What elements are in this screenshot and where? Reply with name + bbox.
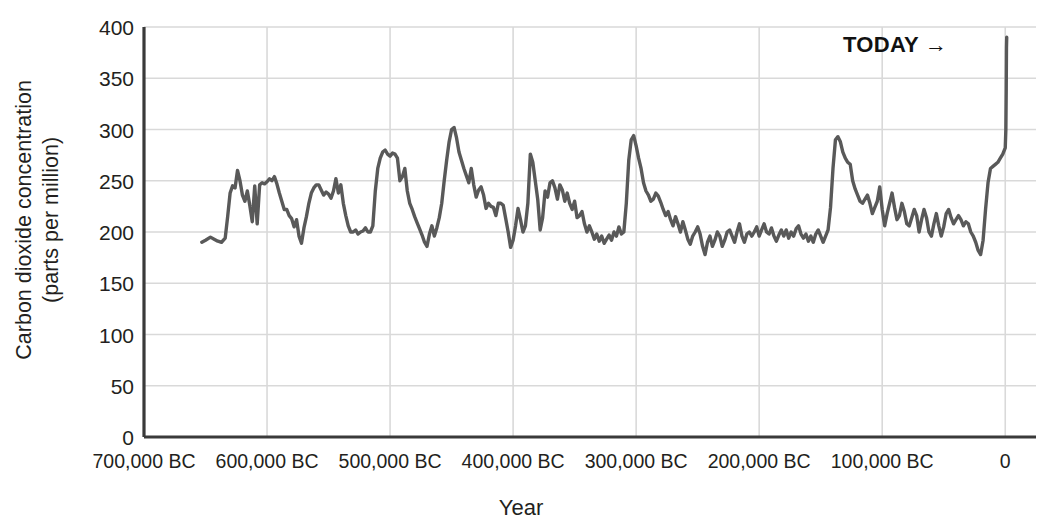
x-tick-label: 500,000 BC: [339, 452, 442, 472]
x-axis-title: Year: [0, 495, 1042, 521]
x-tick-label: 600,000 BC: [216, 452, 319, 472]
today-annotation: TODAY →: [843, 32, 947, 58]
x-tick-label: 0: [1000, 452, 1011, 472]
x-tick-label: 200,000 BC: [708, 452, 811, 472]
x-tick-label: 300,000 BC: [585, 452, 688, 472]
plot-area: [0, 0, 1042, 527]
gridlines: [144, 27, 1036, 437]
chart-figure: Carbon dioxide concentration (parts per …: [0, 0, 1042, 527]
x-tick-label: 100,000 BC: [831, 452, 934, 472]
co2-series-line: [202, 37, 1007, 254]
x-tick-label: 400,000 BC: [462, 452, 565, 472]
x-tick-label: 700,000 BC: [93, 452, 196, 472]
